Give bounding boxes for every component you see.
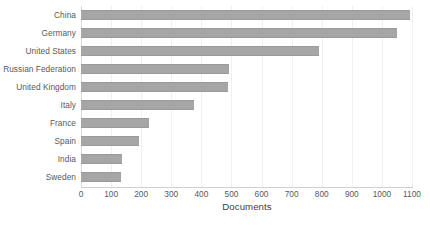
category-label: Sweden — [46, 168, 76, 186]
bar-row — [81, 114, 412, 132]
bar-row — [81, 78, 412, 96]
plot-area — [81, 6, 412, 187]
category-label: China — [54, 6, 76, 24]
x-tick-label: 900 — [345, 189, 359, 199]
bar — [81, 154, 122, 164]
bar-row — [81, 168, 412, 186]
x-tick-label: 300 — [164, 189, 178, 199]
bar-row — [81, 132, 412, 150]
bar — [81, 64, 229, 74]
bar-row — [81, 96, 412, 114]
bar — [81, 46, 319, 56]
x-axis-title: Documents — [81, 201, 413, 212]
category-label: United Kingdom — [16, 78, 76, 96]
category-label: Italy — [61, 96, 76, 114]
x-tick-label: 1000 — [373, 189, 391, 199]
x-tick-label: 700 — [285, 189, 299, 199]
bar-row — [81, 24, 412, 42]
bar-row — [81, 42, 412, 60]
bar-row — [81, 60, 412, 78]
bar — [81, 118, 149, 128]
bar-chart: ChinaGermanyUnited StatesRussian Federat… — [0, 0, 430, 225]
bar — [81, 10, 410, 20]
bar — [81, 136, 139, 146]
category-axis-labels: ChinaGermanyUnited StatesRussian Federat… — [0, 6, 76, 187]
bar-row — [81, 150, 412, 168]
x-tick-label: 0 — [79, 189, 84, 199]
bar-series — [81, 6, 412, 187]
bar — [81, 28, 397, 38]
category-label: Germany — [42, 24, 76, 42]
x-axis-tick-labels: 010020030040050060070080090010001100 — [81, 189, 413, 201]
category-label: United States — [26, 42, 76, 60]
category-label: India — [58, 150, 76, 168]
gridline-1100 — [412, 6, 413, 187]
category-label: Spain — [55, 132, 76, 150]
x-axis-line — [81, 187, 413, 188]
x-tick-label: 400 — [194, 189, 208, 199]
x-tick-label: 500 — [225, 189, 239, 199]
category-label: France — [50, 114, 76, 132]
bar — [81, 100, 194, 110]
bar — [81, 82, 228, 92]
bar-row — [81, 6, 412, 24]
x-tick-label: 200 — [134, 189, 148, 199]
x-tick-label: 100 — [104, 189, 118, 199]
x-tick-label: 800 — [315, 189, 329, 199]
x-tick-label: 600 — [255, 189, 269, 199]
category-label: Russian Federation — [3, 60, 76, 78]
x-tick-label: 1100 — [403, 189, 421, 199]
bar — [81, 172, 121, 182]
